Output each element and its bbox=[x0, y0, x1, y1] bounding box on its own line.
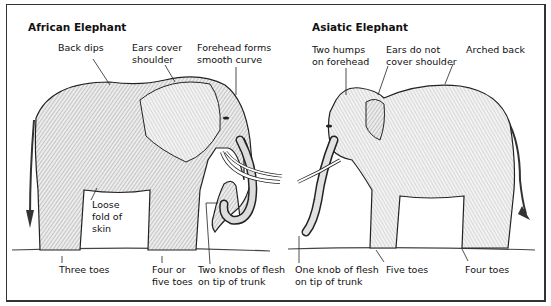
label-four-or-five-toes: Four or five toes bbox=[152, 264, 193, 288]
label-ears-do-not-cover: Ears do not cover shoulder bbox=[386, 44, 457, 68]
label-back-dips: Back dips bbox=[58, 42, 104, 54]
label-loose-fold-of-skin: Loose fold of skin bbox=[92, 199, 122, 235]
label-four-toes: Four toes bbox=[465, 264, 509, 276]
asiatic-elephant-title: Asiatic Elephant bbox=[312, 21, 408, 33]
african-elephant-title: African Elephant bbox=[28, 21, 126, 33]
label-two-humps: Two humps on forehead bbox=[312, 44, 369, 68]
label-three-toes: Three toes bbox=[59, 264, 110, 276]
label-one-knob: One knob of flesh on tip of trunk bbox=[295, 264, 379, 288]
ground-line-icon bbox=[12, 248, 535, 251]
label-two-knobs: Two knobs of flesh on tip of trunk bbox=[198, 264, 285, 288]
african-elephant-icon bbox=[26, 77, 282, 250]
asiatic-elephant-icon bbox=[298, 85, 530, 248]
label-five-toes: Five toes bbox=[386, 264, 428, 276]
label-forehead-smooth-curve: Forehead forms smooth curve bbox=[197, 42, 271, 66]
label-ears-cover-shoulder: Ears cover shoulder bbox=[132, 42, 182, 66]
label-arched-back: Arched back bbox=[466, 44, 525, 56]
